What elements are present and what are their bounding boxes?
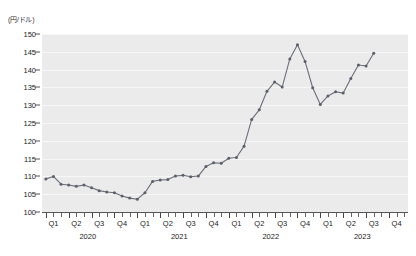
- x-axis-tick-mark: [328, 213, 329, 217]
- x-axis-tick-mark: [259, 213, 260, 217]
- x-axis-tick-mark: [397, 213, 398, 217]
- x-axis-tick-mark: [229, 213, 230, 218]
- gridline: [42, 105, 408, 106]
- x-axis-tick-mark: [114, 213, 115, 218]
- x-axis-quarter-label: Q2: [71, 219, 81, 228]
- gridline: [42, 70, 408, 71]
- x-axis-tick-mark: [61, 213, 62, 217]
- x-axis-quarter-label: Q4: [392, 219, 402, 228]
- gridline: [42, 194, 408, 195]
- x-axis-tick-mark: [69, 213, 70, 218]
- x-axis-tick-mark: [99, 213, 100, 217]
- x-axis-tick-mark: [320, 213, 321, 218]
- y-axis-tick-label: 100: [0, 208, 36, 217]
- x-axis-year-label: 2021: [171, 232, 188, 241]
- y-axis-tick-label: 145: [0, 47, 36, 56]
- x-axis-tick-mark: [160, 213, 161, 218]
- y-axis-tick-label: 135: [0, 83, 36, 92]
- x-axis-tick-mark: [46, 213, 47, 218]
- y-axis-tick-label: 125: [0, 119, 36, 128]
- x-axis-quarter-label: Q3: [186, 219, 196, 228]
- x-axis-tick-mark: [145, 213, 146, 217]
- x-axis-tick-mark: [275, 213, 276, 218]
- x-axis-tick-mark: [358, 213, 359, 217]
- x-axis-tick-mark: [267, 213, 268, 217]
- x-axis-tick-mark: [76, 213, 77, 217]
- x-axis-quarter-label: Q4: [209, 219, 219, 228]
- y-axis-tick-label: 105: [0, 190, 36, 199]
- x-axis-tick-mark: [198, 213, 199, 217]
- x-axis-tick-mark: [244, 213, 245, 217]
- x-axis-tick-mark: [92, 213, 93, 218]
- x-axis-quarter-label: Q4: [300, 219, 310, 228]
- x-axis-tick-mark: [313, 213, 314, 217]
- y-axis-tick-label: 130: [0, 101, 36, 110]
- x-axis-tick-mark: [366, 213, 367, 218]
- x-axis-tick-mark: [221, 213, 222, 217]
- y-axis-tick-mark: [35, 51, 40, 52]
- y-axis-tick-label: 120: [0, 136, 36, 145]
- y-axis-tick-label: 115: [0, 154, 36, 163]
- x-axis-quarter-label: Q1: [231, 219, 241, 228]
- x-axis-tick-mark: [137, 213, 138, 218]
- x-axis-tick-mark: [404, 213, 405, 217]
- x-axis-tick-mark: [130, 213, 131, 217]
- x-axis-year-label: 2023: [354, 232, 371, 241]
- x-axis-tick-mark: [191, 213, 192, 217]
- x-axis-year-label: 2020: [79, 232, 96, 241]
- x-axis-tick-mark: [305, 213, 306, 217]
- y-axis-tick-label: 110: [0, 172, 36, 181]
- y-axis-unit-label: (円/ドル): [8, 14, 34, 24]
- y-axis-tick-mark: [35, 87, 40, 88]
- x-axis-quarter-label: Q3: [94, 219, 104, 228]
- x-axis-tick-mark: [53, 213, 54, 217]
- y-axis-tick-mark: [35, 69, 40, 70]
- x-axis-tick-mark: [343, 213, 344, 218]
- x-axis-tick-mark: [252, 213, 253, 218]
- y-axis-tick-label: 150: [0, 30, 36, 39]
- gridline: [42, 87, 408, 88]
- y-axis-tick-mark: [35, 34, 40, 35]
- y-axis-tick-mark: [35, 123, 40, 124]
- x-axis-tick-mark: [389, 213, 390, 218]
- x-axis-quarter-label: Q2: [346, 219, 356, 228]
- x-axis-tick-mark: [175, 213, 176, 217]
- x-axis-tick-mark: [183, 213, 184, 218]
- gridline: [42, 52, 408, 53]
- gridline: [42, 123, 408, 124]
- gridline: [42, 141, 408, 142]
- x-axis-tick-mark: [236, 213, 237, 217]
- x-axis-quarter-label: Q4: [117, 219, 127, 228]
- x-axis-quarter-label: Q2: [254, 219, 264, 228]
- x-axis-tick-mark: [374, 213, 375, 217]
- x-axis-quarter-label: Q3: [369, 219, 379, 228]
- x-axis-tick-mark: [282, 213, 283, 217]
- y-axis-tick-mark: [35, 176, 40, 177]
- y-axis-tick-mark: [35, 158, 40, 159]
- x-axis-tick-mark: [122, 213, 123, 217]
- y-axis-tick-label: 140: [0, 65, 36, 74]
- x-axis-tick-mark: [206, 213, 207, 218]
- y-axis-tick-mark: [35, 140, 40, 141]
- x-axis-quarter-label: Q3: [277, 219, 287, 228]
- x-axis-year-label: 2022: [262, 232, 279, 241]
- gridline: [42, 34, 408, 35]
- x-axis-tick-mark: [336, 213, 337, 217]
- x-axis-tick-mark: [168, 213, 169, 217]
- y-axis-tick-mark: [35, 105, 40, 106]
- x-axis-tick-mark: [381, 213, 382, 217]
- gridline: [42, 159, 408, 160]
- x-axis-quarter-label: Q1: [323, 219, 333, 228]
- x-axis-quarter-label: Q1: [48, 219, 58, 228]
- x-axis-tick-mark: [297, 213, 298, 218]
- x-axis-quarter-label: Q1: [140, 219, 150, 228]
- x-axis-tick-mark: [351, 213, 352, 217]
- x-axis-tick-mark: [84, 213, 85, 217]
- x-axis-tick-mark: [290, 213, 291, 217]
- x-axis-line: [42, 212, 408, 213]
- x-axis-tick-mark: [153, 213, 154, 217]
- gridline: [42, 176, 408, 177]
- x-axis-tick-mark: [107, 213, 108, 217]
- y-axis-tick-mark: [35, 194, 40, 195]
- y-axis-tick-mark: [35, 212, 40, 213]
